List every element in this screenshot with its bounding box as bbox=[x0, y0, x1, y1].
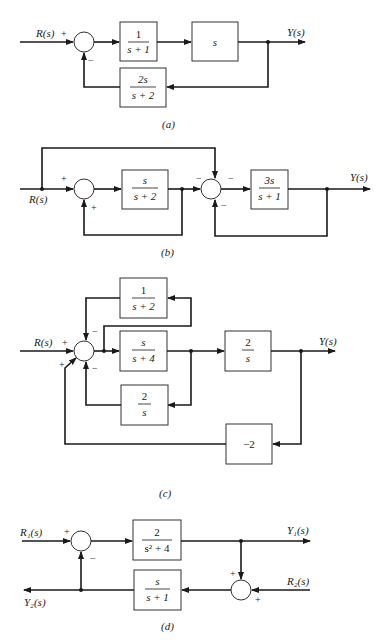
summing-junction bbox=[74, 341, 94, 361]
block-numerator: 2 bbox=[245, 336, 251, 348]
input1-label: R₁(s) bbox=[19, 526, 42, 539]
summing-junction-1 bbox=[74, 179, 94, 199]
sign-plus: + bbox=[255, 594, 261, 605]
block-numerator: 2 bbox=[142, 390, 148, 402]
input-label: R(s) bbox=[35, 27, 55, 40]
summing-junction-1 bbox=[71, 531, 91, 551]
block-denominator: s + 2 bbox=[134, 190, 157, 202]
block-numerator: 1 bbox=[141, 284, 147, 296]
sign-minus: − bbox=[90, 553, 96, 564]
block-numerator: 2 bbox=[154, 526, 160, 538]
diagram-d: R₁(s) + − 2 s² + 4 Y₁(s) + + R₂(s) s s +… bbox=[19, 520, 310, 633]
caption-b: (b) bbox=[161, 246, 174, 259]
block-denominator: s² + 4 bbox=[145, 542, 170, 554]
summing-junction bbox=[74, 32, 94, 52]
diagram-c: R(s) + − + − 1 s + 2 s s + 4 2 s Y(s) 2 bbox=[20, 278, 337, 500]
block-numerator: s bbox=[141, 336, 145, 348]
output-label: Y(s) bbox=[287, 26, 305, 39]
block-diagrams-figure: R(s) + − 1 s + 1 s Y(s) 2s s + 2 (a) R(s… bbox=[0, 0, 380, 644]
output1-label: Y₁(s) bbox=[287, 524, 309, 537]
block-denominator: s bbox=[142, 406, 146, 418]
summing-junction-2 bbox=[201, 179, 221, 199]
block-denominator: s bbox=[246, 352, 250, 364]
sign-minus: − bbox=[88, 55, 94, 66]
summing-junction-2 bbox=[231, 580, 251, 600]
block-denominator: s + 1 bbox=[127, 43, 150, 55]
block-numerator: −2 bbox=[243, 438, 255, 450]
sign-minus: − bbox=[221, 200, 227, 211]
diagram-a: R(s) + − 1 s + 1 s Y(s) 2s s + 2 (a) bbox=[20, 22, 305, 131]
sign-minus: − bbox=[92, 326, 98, 337]
diagram-b: R(s) + + s s + 2 − − − 3s s + 1 Y(s) (b) bbox=[20, 148, 370, 259]
input-label: R(s) bbox=[33, 336, 53, 349]
sign-plus: + bbox=[230, 568, 236, 579]
block-numerator: 1 bbox=[136, 28, 142, 40]
block-denominator: s + 4 bbox=[132, 352, 155, 364]
caption-c: (c) bbox=[159, 487, 172, 500]
sign-minus: − bbox=[92, 363, 98, 374]
block-numerator: s bbox=[155, 575, 159, 587]
input-label: R(s) bbox=[28, 193, 48, 206]
sign-plus: + bbox=[91, 202, 97, 213]
block-denominator: s + 1 bbox=[258, 190, 281, 202]
sign-plus: + bbox=[62, 337, 68, 348]
output-label: Y(s) bbox=[319, 335, 337, 348]
sign-plus: + bbox=[61, 28, 67, 39]
sign-minus: − bbox=[196, 173, 202, 184]
output2-label: Y₂(s) bbox=[24, 596, 46, 609]
block-numerator: s bbox=[143, 174, 147, 186]
caption-d: (d) bbox=[161, 620, 174, 633]
block-denominator: s + 1 bbox=[146, 591, 169, 603]
input2-label: R₂(s) bbox=[286, 575, 309, 588]
output-label: Y(s) bbox=[350, 171, 368, 184]
block-denominator: s + 2 bbox=[132, 89, 155, 101]
sign-plus: + bbox=[61, 173, 67, 184]
block-numerator: 2s bbox=[138, 73, 148, 85]
block-numerator: 3s bbox=[264, 174, 275, 186]
sign-minus: − bbox=[228, 173, 234, 184]
sign-plus: + bbox=[64, 526, 70, 537]
block-denominator: s + 2 bbox=[132, 300, 155, 312]
block-numerator: s bbox=[213, 36, 217, 48]
sign-plus: + bbox=[59, 359, 65, 370]
caption-a: (a) bbox=[162, 118, 175, 131]
